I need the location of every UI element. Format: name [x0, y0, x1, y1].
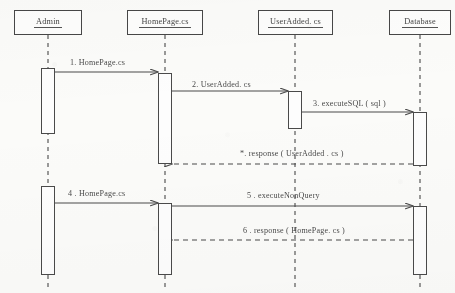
message-label-m6: 5 . executeNonQuery: [247, 191, 320, 200]
activation-bar-homepage[interactable]: [158, 73, 172, 164]
object-label-admin: Admin: [34, 17, 62, 28]
object-box-homepage[interactable]: HomePage.cs: [127, 10, 203, 35]
activation-bar-database[interactable]: [413, 112, 427, 166]
sequence-diagram-svg: [0, 0, 455, 293]
activation-bar-admin[interactable]: [41, 68, 55, 134]
message-label-m5: 4 . HomePage.cs: [68, 189, 125, 198]
activation-bar-useradded[interactable]: [288, 91, 302, 129]
object-label-homepage: HomePage.cs: [139, 17, 190, 28]
object-label-database: Database: [402, 17, 438, 28]
message-label-m3: 3. executeSQL ( sql ): [313, 99, 386, 108]
activation-bar-homepage[interactable]: [158, 203, 172, 275]
message-label-m2: 2. UserAdded. cs: [192, 80, 251, 89]
activation-bar-database[interactable]: [413, 206, 427, 275]
message-label-m1: 1. HomePage.cs: [70, 58, 125, 67]
activation-bar-admin[interactable]: [41, 186, 55, 275]
object-box-admin[interactable]: Admin: [14, 10, 82, 35]
object-label-useradded: UserAdded. cs: [268, 17, 323, 28]
object-box-useradded[interactable]: UserAdded. cs: [258, 10, 333, 35]
lifelines-layer: [48, 35, 420, 288]
sequence-diagram-canvas: AdminHomePage.csUserAdded. csDatabase 1.…: [0, 0, 455, 293]
message-label-m4: *. response ( UserAdded . cs ): [240, 149, 344, 158]
messages-layer: [55, 72, 413, 240]
object-box-database[interactable]: Database: [389, 10, 451, 35]
message-label-m7: 6 . response ( HomePage. cs ): [243, 226, 345, 235]
